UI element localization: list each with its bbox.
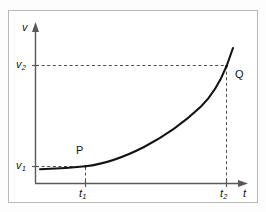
x-tick-label-t1: t1: [79, 188, 86, 199]
y-tick-v2-base: v: [16, 58, 22, 70]
y-axis: [32, 22, 39, 183]
y-axis-arrowhead: [32, 22, 39, 32]
x-axis-arrowhead: [238, 180, 248, 187]
y-tick-label-v2: v2: [16, 59, 26, 70]
y-tick-v1-subscript: 1: [22, 164, 26, 173]
x-tick-t1-subscript: 1: [82, 192, 86, 201]
y-tick-v2-subscript: 2: [22, 63, 26, 72]
y-tick-v1-base: v: [16, 159, 22, 171]
y-tick-label-v1: v1: [16, 160, 26, 171]
velocity-time-figure: v t v2 v1 t1 t2 P Q: [0, 0, 266, 212]
y-axis-label: v: [22, 22, 28, 33]
x-tick-label-t2: t2: [220, 188, 227, 199]
point-label-q: Q: [235, 69, 244, 80]
velocity-curve: [40, 48, 233, 169]
x-axis: [35, 180, 248, 187]
plot-canvas: [0, 0, 266, 212]
point-marker-q: [225, 65, 228, 68]
point-marker-p: [84, 165, 87, 168]
x-axis-label: t: [243, 188, 246, 199]
point-label-p: P: [76, 145, 83, 156]
x-tick-t2-subscript: 2: [223, 192, 227, 201]
